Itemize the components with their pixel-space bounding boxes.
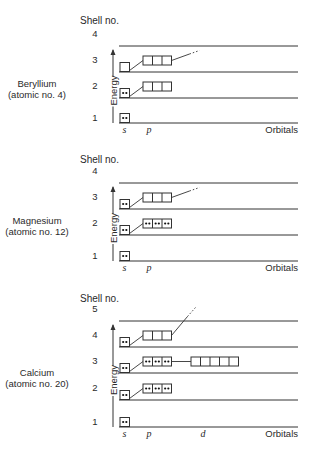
shell-no-header: Shell no. <box>80 293 119 304</box>
electron-dot <box>158 360 160 362</box>
electron-dot <box>148 387 150 389</box>
orbital-4p <box>143 331 172 340</box>
electron-dot <box>122 203 124 205</box>
shell-number: 1 <box>92 112 97 123</box>
shell-number: 3 <box>92 54 97 65</box>
electron-dot <box>122 117 124 119</box>
electron-dot <box>125 229 127 231</box>
atomic-number-label: (atomic no. 20) <box>5 378 68 389</box>
electron-dot <box>145 222 147 224</box>
arrow-up-icon <box>111 49 116 55</box>
orbitals-label: Orbitals <box>265 124 298 135</box>
orbital-letter-p: p <box>146 262 152 273</box>
orbital-letter-s: s <box>123 262 127 273</box>
element-name: Beryllium <box>17 78 56 89</box>
orbital-2s <box>120 89 130 98</box>
orbital-letter-p: p <box>146 428 152 439</box>
electron-dot <box>155 360 157 362</box>
shell-number: 4 <box>92 28 97 39</box>
orbital-letter-d: d <box>201 428 207 439</box>
electron-dot <box>122 255 124 257</box>
shell-number: 3 <box>92 191 97 202</box>
electron-dot <box>148 222 150 224</box>
electron-dot <box>164 360 166 362</box>
orbital-3p <box>143 357 172 366</box>
energy-label: Energy <box>108 365 119 395</box>
element-name: Magnesium <box>12 215 61 226</box>
arrow-up-icon <box>111 186 116 192</box>
electron-dot <box>125 92 127 94</box>
electron-dot <box>158 387 160 389</box>
electron-dot <box>122 92 124 94</box>
electron-dot <box>155 387 157 389</box>
orbital-2p <box>143 82 172 91</box>
shell-number: 1 <box>92 250 97 261</box>
electron-dot <box>122 341 124 343</box>
shell-number: 2 <box>92 382 97 393</box>
orbital-1s <box>120 252 130 261</box>
energy-label: Energy <box>108 213 119 243</box>
electron-dot <box>125 117 127 119</box>
orbitals-label: Orbitals <box>265 262 298 273</box>
panel-beryllium: Shell no.Beryllium(atomic no. 4)4321Ener… <box>8 15 298 135</box>
shell-number: 2 <box>92 80 97 91</box>
shell-number: 4 <box>92 165 97 176</box>
orbital-1s <box>120 114 130 123</box>
orbital-letter-s: s <box>123 428 127 439</box>
orbital-3p <box>143 193 172 202</box>
shell-number: 1 <box>92 416 97 427</box>
atomic-number-label: (atomic no. 4) <box>8 89 66 100</box>
orbital-letter-s: s <box>123 124 127 135</box>
shell-number: 4 <box>92 329 97 340</box>
orbital-2s <box>120 391 130 400</box>
electron-dot <box>122 367 124 369</box>
electron-dot <box>164 222 166 224</box>
shell-number: 2 <box>92 217 97 228</box>
electron-dot <box>155 222 157 224</box>
electron-dot <box>122 421 124 423</box>
shell-no-header: Shell no. <box>80 15 119 26</box>
orbital-1s <box>120 418 130 427</box>
electron-dot <box>167 360 169 362</box>
orbital-3s <box>120 364 130 373</box>
orbital-3d <box>191 357 239 366</box>
orbital-3s <box>120 63 130 72</box>
orbital-3s <box>120 200 130 209</box>
electron-dot <box>158 222 160 224</box>
orbital-4s <box>120 338 130 347</box>
electron-dot <box>122 394 124 396</box>
electron-dot <box>167 222 169 224</box>
electron-dot <box>125 367 127 369</box>
electron-shell-diagram: Shell no.Beryllium(atomic no. 4)4321Ener… <box>0 0 319 450</box>
orbital-3p <box>143 56 172 65</box>
orbitals-label: Orbitals <box>265 428 298 439</box>
electron-dot <box>125 421 127 423</box>
electron-dot <box>125 341 127 343</box>
arrow-up-icon <box>111 324 116 330</box>
electron-dot <box>145 360 147 362</box>
electron-dot <box>125 203 127 205</box>
electron-dot <box>122 229 124 231</box>
orbital-2p <box>143 384 172 393</box>
shell-number: 5 <box>92 303 97 314</box>
shell-number: 3 <box>92 355 97 366</box>
electron-dot <box>125 394 127 396</box>
electron-dot <box>167 387 169 389</box>
shell-no-header: Shell no. <box>80 154 119 165</box>
element-name: Calcium <box>20 367 54 378</box>
panel-calcium: Shell no.Calcium(atomic no. 20)54321Ener… <box>5 293 298 439</box>
panel-magnesium: Shell no.Magnesium(atomic no. 12)4321Ene… <box>5 154 298 273</box>
atomic-number-label: (atomic no. 12) <box>5 226 68 237</box>
electron-dot <box>145 387 147 389</box>
energy-label: Energy <box>108 75 119 105</box>
electron-dot <box>125 255 127 257</box>
orbital-2s <box>120 226 130 235</box>
orbital-2p <box>143 219 172 228</box>
orbital-letter-p: p <box>146 124 152 135</box>
electron-dot <box>148 360 150 362</box>
electron-dot <box>164 387 166 389</box>
